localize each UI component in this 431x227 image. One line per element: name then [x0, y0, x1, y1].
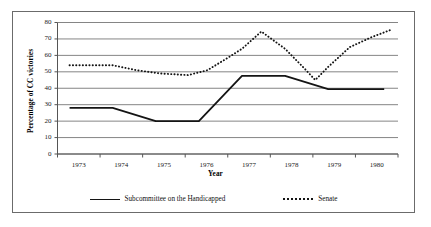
chart-figure: Percentage of CC victories Year 80706050… [0, 0, 431, 227]
x-tick-label-1975: 1975 [144, 161, 184, 169]
legend-dotted-line-icon [283, 198, 313, 200]
series-line-subcommittee [70, 76, 385, 121]
y-tick-label-10: 10 [32, 133, 52, 141]
legend-item-subcommittee: Subcommittee on the Handicapped [90, 195, 226, 203]
x-tick-label-1973: 1973 [59, 161, 99, 169]
x-axis-title: Year [0, 170, 431, 178]
y-tick-label-40: 40 [32, 84, 52, 92]
x-tick-label-1976: 1976 [186, 161, 226, 169]
x-tick-label-1980: 1980 [357, 161, 397, 169]
x-tick-label-1977: 1977 [229, 161, 269, 169]
legend-label-senate: Senate [318, 195, 337, 203]
x-tick-label-1978: 1978 [272, 161, 312, 169]
y-tick-label-50: 50 [32, 67, 52, 75]
y-tick-label-20: 20 [32, 117, 52, 125]
legend-item-senate: Senate [283, 195, 337, 203]
x-tick-label-1979: 1979 [314, 161, 354, 169]
y-tick-label-70: 70 [32, 34, 52, 42]
chart-legend: Subcommittee on the Handicapped Senate [12, 188, 415, 210]
y-tick-label-60: 60 [32, 51, 52, 59]
legend-label-subcommittee: Subcommittee on the Handicapped [125, 195, 226, 203]
legend-solid-line-icon [90, 199, 120, 200]
y-tick-label-80: 80 [32, 18, 52, 26]
y-tick-label-0: 0 [32, 150, 52, 158]
y-tick-label-30: 30 [32, 100, 52, 108]
x-tick-label-1974: 1974 [101, 161, 141, 169]
